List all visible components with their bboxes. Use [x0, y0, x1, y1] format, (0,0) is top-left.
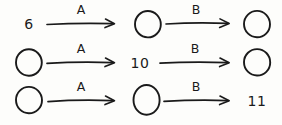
arrow-labeled: A [48, 79, 115, 105]
blank-circle-icon [134, 85, 160, 115]
arrow-label: A [77, 41, 86, 56]
node-value-text: 11 [248, 93, 267, 109]
node-value-text: 6 [24, 16, 33, 32]
arrow-shaft [48, 100, 113, 101]
arrow-label: B [191, 41, 200, 56]
arrow-label: A [77, 79, 86, 94]
node-blank [244, 11, 270, 37]
arrow-labeled: A [47, 41, 115, 67]
blank-circle-icon [16, 87, 42, 113]
node-blank [16, 49, 42, 75]
diagram-canvas: 6 A B [0, 0, 282, 125]
blank-circle-icon [135, 11, 161, 37]
node-blank [16, 87, 42, 113]
arrow-label: A [77, 2, 86, 17]
arrow-shaft [47, 23, 113, 24]
node-blank [134, 85, 160, 115]
node-blank [244, 49, 270, 75]
blank-circle-icon [16, 49, 42, 75]
diagram-row: 6 A B [24, 2, 270, 38]
node-blank [135, 11, 161, 37]
hand-drawn-diagram: 6 A B [0, 0, 282, 125]
arrow-shaft [166, 23, 228, 24]
arrow-shaft [47, 62, 113, 63]
arrow-label: B [192, 79, 201, 94]
node-value: 11 [248, 93, 267, 109]
arrow-label: B [192, 2, 201, 17]
diagram-row: A B 11 [16, 79, 266, 115]
arrow-labeled: A [47, 2, 115, 28]
node-value-text: 10 [131, 55, 150, 71]
blank-circle-icon [244, 49, 270, 75]
arrow-labeled: B [160, 41, 229, 67]
arrow-shaft [160, 62, 228, 63]
arrow-labeled: B [164, 79, 229, 105]
arrow-shaft [164, 100, 228, 101]
node-value: 10 [131, 55, 150, 71]
arrow-labeled: B [166, 2, 229, 28]
node-value: 6 [24, 16, 33, 32]
blank-circle-icon [244, 11, 270, 37]
diagram-row: A 10 B [16, 41, 270, 76]
